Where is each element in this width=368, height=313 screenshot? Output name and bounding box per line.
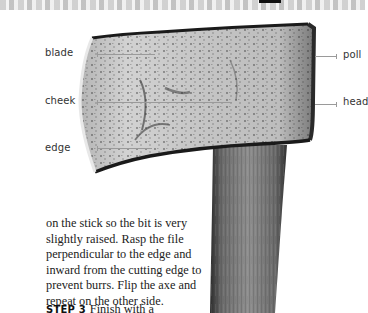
label-edge: edge (45, 142, 70, 153)
label-blade: blade (45, 47, 73, 58)
label-head: head (343, 96, 368, 107)
leader-poll-tick (336, 54, 337, 59)
label-poll: poll (343, 49, 361, 60)
leader-edge-tick (97, 146, 98, 151)
leader-head (315, 104, 336, 105)
leader-poll (315, 56, 336, 57)
leader-blade (97, 54, 155, 55)
step-3: STEP 3Finish with a (46, 302, 154, 313)
leader-edge (97, 148, 152, 149)
label-cheek: cheek (45, 95, 75, 106)
step-text: Finish with a (90, 302, 154, 313)
leader-head-tick (336, 102, 337, 107)
leader-blade-tick (97, 52, 98, 57)
leader-cheek-tick (97, 100, 98, 105)
instruction-paragraph: on the stick so the bit is very slightly… (46, 216, 208, 310)
leader-cheek (97, 102, 232, 103)
step-label: STEP 3 (46, 304, 86, 313)
